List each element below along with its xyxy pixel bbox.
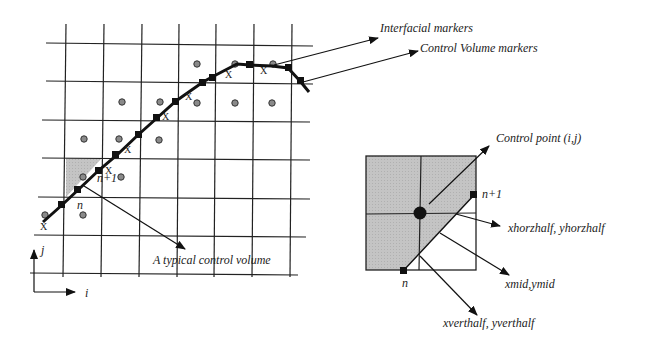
- ij-axes: j i: [34, 243, 88, 300]
- axis-i-label: i: [85, 286, 88, 300]
- typical-control-volume-label: A typical control volume: [152, 253, 271, 267]
- right-n1-label: n+1: [482, 187, 502, 201]
- x-marks: X X X X X X X: [40, 65, 268, 232]
- svg-text:X: X: [185, 91, 193, 102]
- axis-j-label: j: [39, 243, 45, 257]
- typical-cv-arrow: [84, 186, 185, 249]
- interfacial-markers-arrow: [274, 38, 378, 65]
- svg-text:X: X: [40, 221, 48, 232]
- diagram-canvas: X X X X X X X n n+1 Interfacial markers …: [0, 0, 647, 351]
- horzhalf-arrow: [456, 214, 500, 226]
- marker-n-label: n: [77, 198, 83, 212]
- svg-text:X: X: [124, 144, 132, 155]
- verthalf-arrow: [420, 256, 477, 315]
- control-volume-markers-label: Control Volume markers: [420, 41, 538, 55]
- verthalf-label: xverthalf, yverthalf: [442, 316, 536, 330]
- svg-text:X: X: [225, 69, 233, 80]
- control-volume-markers-arrow: [303, 51, 418, 82]
- mid-label: xmid,ymid: [504, 277, 556, 291]
- control-point: [414, 207, 427, 220]
- interfacial-markers-label: Interfacial markers: [379, 21, 473, 35]
- svg-text:X: X: [162, 111, 170, 122]
- svg-text:X: X: [260, 65, 268, 76]
- control-point-label: Control point (i,j): [496, 131, 581, 145]
- control-points: [42, 61, 276, 218]
- mid-arrow: [440, 233, 509, 275]
- right-n-label: n: [402, 276, 408, 290]
- horzhalf-label: xhorzhalf, yhorzhalf: [507, 221, 606, 235]
- marker-n1-label: n+1: [97, 171, 117, 185]
